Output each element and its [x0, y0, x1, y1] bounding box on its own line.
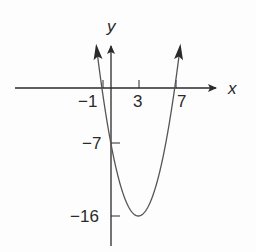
x-tick-label-neg1: −1 [78, 93, 97, 110]
y-tick-label-neg16: −16 [70, 208, 99, 225]
x-tick-label-7: 7 [177, 93, 186, 110]
y-tick-label-neg7: −7 [82, 135, 101, 152]
graph-canvas [0, 0, 256, 252]
x-axis-label: x [228, 80, 237, 97]
y-axis-label: y [107, 18, 116, 35]
x-tick-label-3: 3 [133, 93, 142, 110]
parabola-curve [96, 47, 180, 216]
graph-figure: y x −1 3 7 −7 −16 [0, 0, 256, 252]
